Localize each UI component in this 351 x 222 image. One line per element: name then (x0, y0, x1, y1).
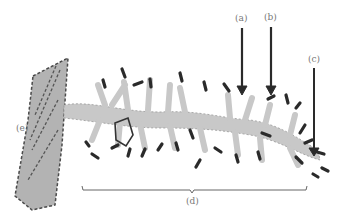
label-d: (d) (186, 197, 199, 206)
cell-body (15, 58, 68, 210)
dendrite-diagram: (a) (b) (c) (d) (e) (0, 0, 351, 222)
label-e: (e) (16, 124, 28, 133)
dendrite-shaft (64, 80, 320, 165)
label-c: (c) (308, 55, 320, 64)
label-b: (b) (264, 13, 277, 22)
bracket-d (82, 186, 307, 193)
label-a: (a) (235, 14, 247, 23)
diagram-canvas (0, 0, 351, 222)
